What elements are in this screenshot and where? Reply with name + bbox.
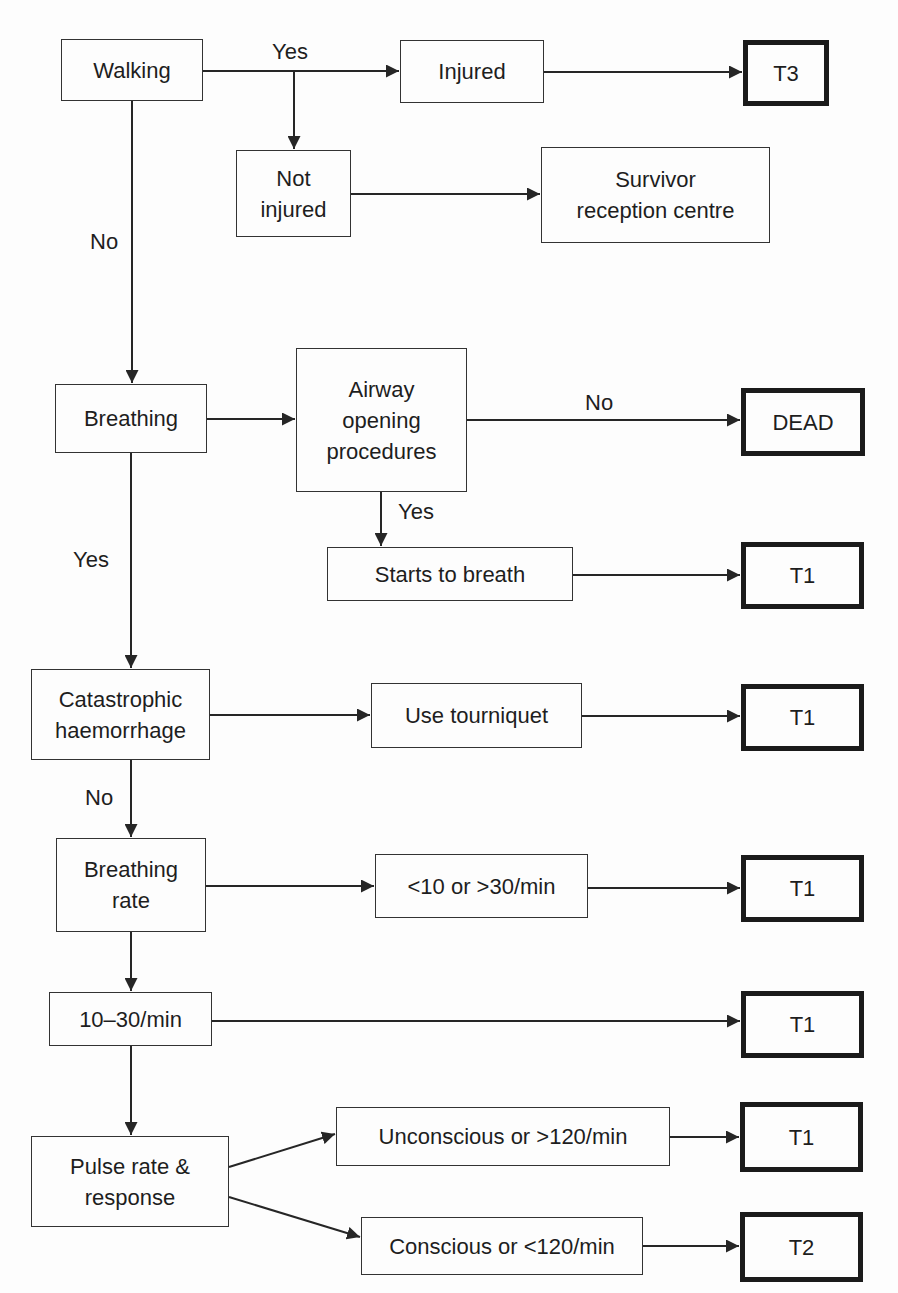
node-outcome-t1-tourniquet: T1 [741, 684, 864, 751]
node-walking: Walking [61, 39, 203, 101]
node-breathing-rate: Breathing rate [56, 838, 206, 932]
node-survivor-reception: Survivor reception centre [541, 147, 770, 243]
node-outcome-t1-normal: T1 [741, 991, 864, 1058]
node-outcome-t1-unconscious: T1 [740, 1102, 863, 1172]
edge-label-airway-yes: Yes [398, 500, 434, 524]
triage-flowchart: Walking Injured T3 Not injured Survivor … [0, 0, 898, 1293]
node-not-injured: Not injured [236, 150, 351, 237]
node-conscious: Conscious or <120/min [361, 1217, 643, 1275]
edge-label-walking-no: No [90, 230, 118, 254]
arrow-pulse-conscious [229, 1197, 360, 1237]
node-pulse-rate-response: Pulse rate & response [31, 1136, 229, 1227]
edge-label-airway-no: No [585, 391, 613, 415]
arrow-pulse-unconscious [229, 1134, 335, 1167]
node-starts-to-breath: Starts to breath [327, 547, 573, 601]
node-rate-abnormal: <10 or >30/min [375, 854, 588, 918]
node-breathing: Breathing [55, 384, 207, 453]
node-outcome-t3: T3 [743, 40, 829, 106]
edge-label-breathing-yes: Yes [73, 548, 109, 572]
node-unconscious: Unconscious or >120/min [336, 1107, 670, 1166]
node-outcome-t1-rate: T1 [741, 855, 864, 922]
node-outcome-t1-airway: T1 [741, 542, 864, 609]
node-airway-opening: Airway opening procedures [296, 348, 467, 492]
node-rate-normal: 10–30/min [49, 992, 212, 1046]
edge-label-catastrophic-no: No [85, 786, 113, 810]
node-outcome-dead: DEAD [741, 388, 865, 456]
node-use-tourniquet: Use tourniquet [371, 683, 582, 748]
edge-label-walking-yes: Yes [272, 40, 308, 64]
node-outcome-t2: T2 [740, 1212, 863, 1282]
node-catastrophic-haemorrhage: Catastrophic haemorrhage [31, 669, 210, 760]
node-injured: Injured [400, 40, 544, 103]
